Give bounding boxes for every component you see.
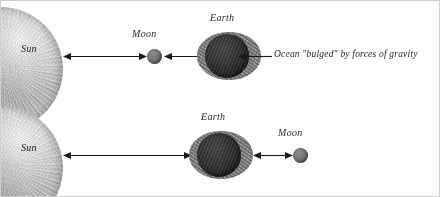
sun-label-bottom: Sun xyxy=(21,142,37,153)
ocean-bulge-annotation: Ocean "bulged" by forces of gravity xyxy=(274,49,418,59)
earth-to-moon-arrow xyxy=(253,150,293,161)
earth-core-bottom xyxy=(197,133,241,177)
tidal-diagram-figure: Sun Moon Earth xyxy=(0,0,440,197)
moon-label-bottom: Moon xyxy=(278,127,303,138)
panel-bottom: Sun Earth Moon xyxy=(1,100,440,197)
sun-to-moon-arrow xyxy=(63,51,147,62)
ocean-bulge-leader-arrow xyxy=(238,51,272,62)
sun-to-earth-arrow xyxy=(63,150,192,161)
moon-body-bottom xyxy=(293,148,308,163)
moon-label-top: Moon xyxy=(132,28,157,39)
sun-label-top: Sun xyxy=(21,43,37,54)
panel-top: Sun Moon Earth xyxy=(1,1,440,99)
earth-label-bottom: Earth xyxy=(201,111,225,122)
earth-body-bottom xyxy=(189,131,253,179)
moon-body-top xyxy=(147,49,162,64)
earth-label-top: Earth xyxy=(210,12,234,23)
